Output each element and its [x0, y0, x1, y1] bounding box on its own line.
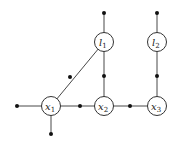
node-x2: x2: [95, 97, 114, 116]
edge-x1-l1: [51, 42, 104, 106]
factor-x1-x2: [78, 104, 82, 108]
factor-x2-l1: [102, 74, 106, 78]
node-l1: l1: [95, 33, 114, 52]
factor-x3-l2: [155, 74, 159, 78]
edges: [17, 13, 157, 134]
factor-l1-top: [102, 11, 106, 15]
factor-x1-l1: [68, 75, 72, 79]
node-x1: x1: [42, 97, 61, 116]
node-x3: x3: [148, 97, 167, 116]
factor-graph-diagram: x1 x2 x3 l1 l2: [0, 0, 178, 143]
factor-x1-left: [15, 104, 19, 108]
node-l2: l2: [148, 33, 167, 52]
factor-x1-bottom: [49, 132, 53, 136]
factor-x2-x3: [128, 104, 132, 108]
factors: [15, 11, 159, 136]
factor-l2-top: [155, 11, 159, 15]
